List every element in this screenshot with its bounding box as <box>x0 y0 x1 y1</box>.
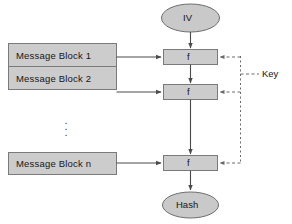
f-2-shape <box>164 85 218 100</box>
iv-oval-shape <box>162 4 220 32</box>
message-block-n-shape <box>9 153 117 175</box>
message-blocks-ellipsis: . . . <box>61 117 71 135</box>
diagram-canvas <box>0 0 292 224</box>
f-n-shape <box>164 156 218 171</box>
hash-oval-shape <box>163 192 219 218</box>
message-block-2-shape <box>9 67 117 90</box>
ellipsis-dot-3: . <box>61 129 71 135</box>
hash-construction-diagram: Message Block 1 Message Block 2 Message … <box>0 0 292 224</box>
message-block-1-shape <box>9 44 117 67</box>
f-1-shape <box>164 50 218 65</box>
